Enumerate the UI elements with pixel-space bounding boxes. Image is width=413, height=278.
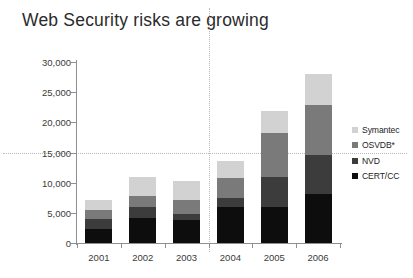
bar-segment [129, 218, 156, 243]
x-axis-tick-mark [252, 243, 253, 248]
bar-2003 [173, 181, 200, 243]
x-axis-tick-mark [121, 243, 122, 248]
bar-2001 [85, 200, 112, 243]
x-axis-label-2005: 2005 [251, 252, 297, 263]
bar-2006 [305, 74, 332, 243]
bar-segment [129, 177, 156, 196]
y-axis-ticks: 05,00010,00015,00020,00025,00030,000 [0, 0, 71, 278]
bar-segment [305, 194, 332, 243]
plot-area [77, 62, 340, 243]
y-axis-tick-mark [71, 92, 76, 93]
y-axis-tick-mark [71, 122, 76, 123]
x-axis-tick-mark [77, 243, 78, 248]
bar-2004 [217, 161, 244, 243]
bar-segment [261, 207, 288, 243]
chart-container: Web Security risks are growing 05,00010,… [0, 0, 413, 278]
y-axis-tick-mark [71, 213, 76, 214]
bar-segment [217, 207, 244, 243]
x-axis-tick-mark [340, 243, 341, 248]
legend-swatch-icon [352, 127, 358, 133]
x-axis-label-2006: 2006 [295, 252, 341, 263]
x-axis-label-2004: 2004 [207, 252, 253, 263]
bar-2002 [129, 177, 156, 243]
x-axis-label-2001: 2001 [76, 252, 122, 263]
legend-label: OSVDB* [362, 140, 395, 150]
bar-segment [217, 161, 244, 178]
bar-segment [85, 200, 112, 211]
x-axis-tick-mark [165, 243, 166, 248]
bar-segment [305, 155, 332, 194]
bar-segment [261, 133, 288, 176]
legend-label: CERT/CC [362, 171, 399, 181]
legend-item-osvdb-[interactable]: OSVDB* [352, 138, 413, 154]
bar-segment [129, 207, 156, 218]
x-axis-label-2002: 2002 [120, 252, 166, 263]
chart-legend: SymantecOSVDB*NVDCERT/CC [352, 122, 413, 184]
y-axis-tick-mark [71, 62, 76, 63]
bar-segment [173, 200, 200, 214]
legend-swatch-icon [352, 142, 358, 148]
bar-segment [261, 111, 288, 133]
bar-segment [85, 219, 112, 228]
legend-item-nvd[interactable]: NVD [352, 153, 413, 169]
legend-swatch-icon [352, 173, 358, 179]
bar-segment [305, 74, 332, 105]
bar-segment [173, 220, 200, 243]
x-axis-tick-mark [296, 243, 297, 248]
y-axis-tick-label: 10,000 [42, 177, 71, 188]
y-axis-tick-label: 25,000 [42, 87, 71, 98]
legend-item-cert-cc[interactable]: CERT/CC [352, 169, 413, 185]
bar-segment [85, 210, 112, 219]
bar-segment [305, 105, 332, 155]
y-axis-tick-label: 20,000 [42, 117, 71, 128]
bar-segment [173, 181, 200, 199]
y-axis-tick-mark [71, 243, 76, 244]
legend-label: Symantec [362, 125, 399, 135]
bar-segment [85, 229, 112, 243]
bar-2005 [261, 111, 288, 243]
y-axis-tick-label: 5,000 [47, 207, 71, 218]
bar-segment [261, 177, 288, 208]
y-axis-tick-label: 30,000 [42, 57, 71, 68]
legend-swatch-icon [352, 158, 358, 164]
x-axis-tick-mark [209, 243, 210, 248]
legend-label: NVD [362, 156, 380, 166]
x-axis-label-2003: 2003 [164, 252, 210, 263]
y-axis-tick-label: 15,000 [42, 147, 71, 158]
bar-segment [129, 196, 156, 207]
bar-segment [217, 198, 244, 208]
y-axis-tick-mark [71, 153, 76, 154]
y-axis-tick-mark [71, 183, 76, 184]
bar-segment [217, 178, 244, 197]
legend-item-symantec[interactable]: Symantec [352, 122, 413, 138]
